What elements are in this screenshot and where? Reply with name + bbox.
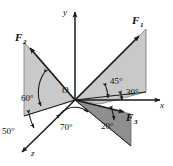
f2-label-subscript: 2 [22, 38, 27, 46]
angle-arc-50 [29, 114, 34, 128]
angle-label-30: 30° [126, 87, 139, 97]
angle-arc-70 [60, 107, 88, 114]
origin-label: O [62, 85, 69, 95]
angle-label-50: 50° [2, 126, 15, 136]
f1-label-letter: F [131, 14, 140, 26]
diagram-svg: F 1 F 2 F 3 O y x z 45° 30° 60° 50° 70° … [0, 0, 173, 166]
f2-plane [24, 42, 75, 116]
x-axis-label: x [159, 100, 164, 110]
f2-label-letter: F [14, 31, 23, 43]
angle-label-20: 20° [101, 121, 114, 131]
angle-label-60: 60° [21, 93, 34, 103]
f3-label-subscript: 3 [133, 118, 138, 126]
y-axis-label: y [62, 7, 67, 17]
f3-label-letter: F [125, 111, 134, 123]
angle-label-45: 45° [110, 76, 123, 86]
force-vector-diagram: F 1 F 2 F 3 O y x z 45° 30° 60° 50° 70° … [0, 0, 173, 166]
f1-label-subscript: 1 [140, 21, 144, 29]
z-axis-label: z [30, 148, 35, 158]
angle-label-70: 70° [60, 122, 73, 132]
f1-label: F 1 [131, 14, 144, 29]
f2-label: F 2 [14, 31, 27, 46]
